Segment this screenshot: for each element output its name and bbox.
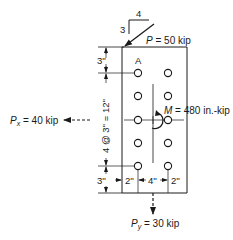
connection-diagram: 4 3 P = 50 kip A M = 480 in.-kip Px = 4	[0, 0, 233, 240]
moment-label: M = 480 in.-kip	[164, 105, 230, 116]
slope-vertical-label: 3	[120, 24, 125, 35]
bolt	[164, 162, 171, 169]
bolt	[164, 92, 171, 99]
load-px-label: Px = 40 kip	[10, 115, 59, 127]
bolt	[134, 162, 141, 169]
bolt-a-label: A	[135, 55, 142, 66]
load-py-label: Py = 30 kip	[131, 218, 180, 231]
dim-top-edge: 3''	[97, 55, 106, 66]
load-p-label: P = 50 kip	[146, 35, 191, 46]
bolt	[134, 139, 141, 146]
dim-gauge: 4''	[148, 175, 157, 186]
dim-left-edge: 2''	[125, 175, 134, 186]
bolt	[164, 139, 171, 146]
bolt	[164, 116, 171, 123]
dim-right-edge: 2''	[171, 175, 180, 186]
dim-vertical-spacing: 4 @ 3'' = 12''	[100, 99, 111, 153]
moment-arrow	[152, 110, 163, 129]
bolt	[164, 69, 171, 76]
dim-bottom-edge: 3''	[97, 175, 106, 186]
slope-horizontal-label: 4	[136, 8, 141, 19]
bolt	[134, 116, 141, 123]
bolt	[134, 69, 141, 76]
bolt	[134, 92, 141, 99]
